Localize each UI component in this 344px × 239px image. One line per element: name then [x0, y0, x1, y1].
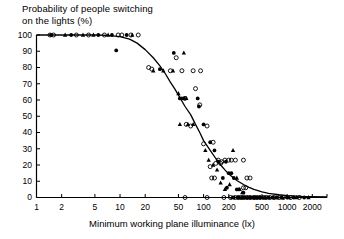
y-tick-label: 100 [12, 30, 32, 40]
y-tick-label: 30 [12, 144, 32, 154]
chart-figure: Probability of people switching on the l… [0, 0, 344, 239]
data-point-open-circle [194, 87, 198, 91]
y-tick-label: 20 [12, 160, 32, 170]
data-point-open-circle [191, 69, 195, 73]
data-point-open-circle [180, 69, 184, 73]
data-point-filled-circle [196, 96, 200, 100]
data-point-filled-circle [202, 122, 206, 126]
data-point-open-circle [212, 176, 216, 180]
data-point-filled-circle [216, 160, 220, 164]
data-point-filled-circle [125, 33, 129, 37]
data-point-open-circle [229, 158, 233, 162]
data-point-filled-triangle [231, 148, 235, 152]
y-tick-label: 40 [12, 127, 32, 137]
fit-curve [37, 35, 328, 197]
data-point-filled-circle [208, 140, 212, 144]
y-tick-label: 70 [12, 79, 32, 89]
data-point-filled-circle [197, 105, 201, 109]
data-point-filled-triangle [227, 182, 231, 186]
data-point-open-circle [241, 158, 245, 162]
data-point-open-circle [174, 56, 178, 60]
x-tick-label: 200 [214, 202, 244, 212]
data-point-open-circle [233, 158, 237, 162]
y-tick-label: 10 [12, 176, 32, 186]
data-point-filled-circle [172, 51, 176, 55]
x-tick-label: 2000 [297, 202, 327, 212]
x-tick-label: 20 [130, 202, 160, 212]
data-point-open-circle [136, 33, 140, 37]
data-point-filled-triangle [218, 180, 222, 184]
data-point-filled-circle [114, 49, 118, 53]
data-point-filled-circle [224, 160, 228, 164]
data-point-open-circle [205, 124, 209, 128]
data-point-open-circle [202, 142, 206, 146]
y-tick-label: 50 [12, 111, 32, 121]
data-point-filled-circle [110, 33, 114, 37]
data-point-filled-circle [213, 148, 217, 152]
data-point-filled-circle [49, 33, 53, 37]
y-tick-label: 90 [12, 46, 32, 56]
data-point-filled-circle [96, 33, 100, 37]
data-point-filled-circle [221, 176, 225, 180]
data-point-filled-circle [158, 67, 162, 71]
data-point-filled-triangle [203, 148, 207, 152]
data-point-filled-triangle [178, 122, 182, 126]
data-point-filled-circle [302, 196, 306, 200]
data-point-filled-circle [229, 171, 233, 175]
x-tick-label: 2 [47, 202, 77, 212]
data-point-filled-triangle [215, 167, 219, 171]
data-point-open-circle [199, 69, 203, 73]
data-point-filled-triangle [182, 50, 186, 54]
y-tick-label: 60 [12, 95, 32, 105]
y-tick-label: 80 [12, 62, 32, 72]
data-point-filled-circle [69, 33, 73, 37]
data-point-filled-triangle [151, 68, 155, 72]
x-axis-label: Minimum working plane illuminance (lx) [0, 218, 344, 229]
data-point-filled-triangle [207, 158, 211, 162]
